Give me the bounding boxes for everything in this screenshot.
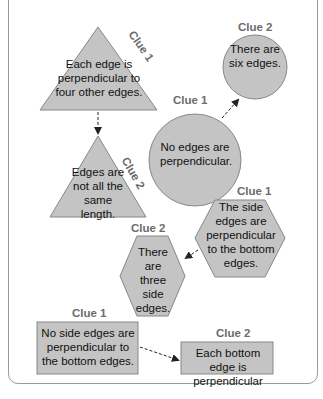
clue-label: Clue 2: [216, 327, 251, 339]
clue-text: Each bottom edge is perpendicular: [184, 346, 272, 388]
clue-label: Clue 1: [72, 307, 107, 319]
clue-text: There are three side edges.: [130, 245, 176, 315]
clue-text: No edges are perpendicular.: [160, 140, 230, 168]
arrow-icon: [186, 250, 198, 258]
clue-label: Clue 1: [173, 94, 208, 106]
clue-text: Edges are not all the same length.: [70, 165, 126, 221]
clue-text: Each edge is perpendicular to four other…: [55, 57, 143, 99]
clue-label: Clue 2: [238, 21, 273, 33]
arrow-icon: [222, 100, 238, 118]
clue-label: Clue 2: [131, 222, 166, 234]
arrow-icon: [140, 347, 178, 360]
clue-text: The side edges are perpendicular to the …: [203, 200, 279, 270]
clue-text: No side edges are perpendicular to the b…: [40, 326, 136, 368]
clue-text: There are six edges.: [228, 42, 282, 70]
clue-label: Clue 1: [237, 185, 272, 197]
